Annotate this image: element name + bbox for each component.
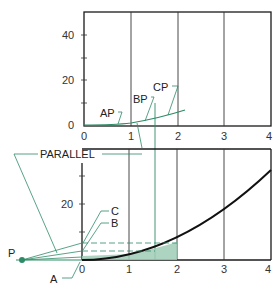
top-ytick-0: 0 [68, 119, 74, 131]
top-xtick-0: 0 [81, 130, 87, 142]
bottom-xtick-0: 0 [79, 263, 85, 275]
bottom-ytick-20: 20 [61, 198, 73, 210]
bottom-xtick-4: 4 [265, 263, 271, 275]
top-xtick-4: 4 [266, 130, 272, 142]
top-ytick-40: 40 [62, 29, 74, 41]
bottom-chart: 20 0 1 2 3 4 P A B C PARALLEL [8, 148, 271, 285]
bottom-xtick-1: 1 [126, 263, 132, 275]
top-xtick-1: 1 [128, 130, 134, 142]
label-a: A [50, 273, 58, 285]
top-xtick-3: 3 [221, 130, 227, 142]
bottom-xtick-2: 2 [174, 263, 180, 275]
label-b: B [111, 217, 118, 229]
label-c: C [111, 205, 119, 217]
label-bp: BP [133, 93, 148, 105]
label-cp: CP [153, 81, 168, 93]
label-ap: AP [100, 107, 115, 119]
diagram-canvas: 40 20 0 0 1 2 3 4 AP BP CP 20 0 [0, 0, 280, 285]
top-ytick-20: 20 [62, 74, 74, 86]
top-chart: 40 20 0 0 1 2 3 4 AP BP CP [62, 12, 272, 260]
top-xtick-2: 2 [175, 130, 181, 142]
bottom-xtick-3: 3 [221, 263, 227, 275]
label-parallel: PARALLEL [40, 148, 95, 160]
label-p: P [8, 247, 15, 259]
